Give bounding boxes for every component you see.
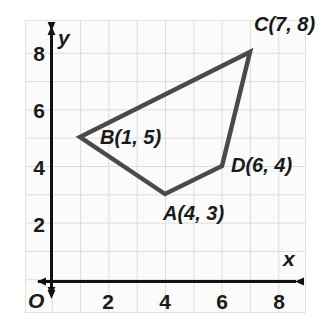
origin-label: O	[28, 290, 44, 311]
x-tick-label-2: 2	[102, 291, 114, 312]
x-tick-label-6: 6	[216, 291, 228, 312]
vertex-label-d: D(6, 4)	[231, 155, 292, 175]
vertex-label-c-text: C(7, 8)	[254, 13, 315, 35]
vertex-label-d-text: D(6, 4)	[231, 154, 292, 176]
y-tick-label-6: 6	[33, 100, 45, 121]
y-axis-label: y	[58, 27, 70, 48]
polygon-outline	[80, 52, 250, 194]
y-tick-label-4: 4	[33, 157, 45, 178]
vertex-label-b: B(1, 5)	[100, 127, 161, 147]
y-tick-label-8: 8	[33, 43, 45, 64]
x-axis-label: x	[283, 248, 295, 269]
vertex-label-b-text: B(1, 5)	[100, 126, 161, 148]
x-tick-label-8: 8	[273, 291, 285, 312]
x-tick-label-4: 4	[159, 291, 171, 312]
vertex-label-c: C(7, 8)	[254, 14, 315, 34]
coordinate-plane-figure: 8 6 4 2 2 4 6 8 y x O C(7, 8) B(1, 5) D(…	[0, 0, 328, 332]
vertex-label-a-text: A(4, 3)	[163, 202, 224, 224]
y-tick-label-2: 2	[33, 214, 45, 235]
vertex-label-a: A(4, 3)	[163, 203, 224, 223]
